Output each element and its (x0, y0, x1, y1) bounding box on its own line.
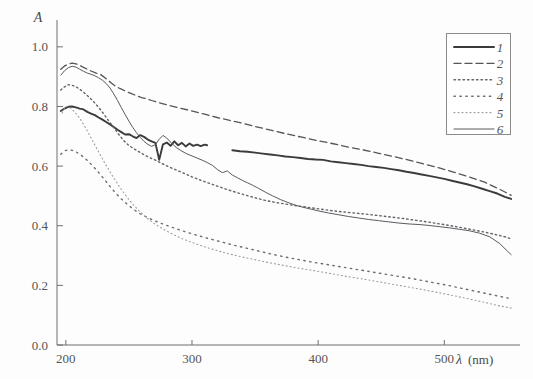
series-3 (61, 85, 511, 239)
x-axis-title-symbol: λ (455, 352, 462, 367)
legend-label-1: 1 (497, 40, 504, 55)
legend-label-4: 4 (497, 89, 504, 104)
y-tick-label-0.4: 0.4 (32, 218, 49, 233)
series-2 (61, 63, 511, 195)
chart-legend: 123456 (447, 34, 511, 138)
series-6 (61, 66, 511, 254)
absorbance-spectrum-figure: 200300400500 0.00.20.40.60.81.0 A λ (nm)… (0, 0, 533, 379)
y-axis-tick-labels: 0.00.20.40.60.81.0 (32, 39, 49, 352)
x-tick-label-200: 200 (56, 351, 76, 366)
series-1-segment-1 (232, 150, 511, 199)
x-tick-label-500: 500 (435, 351, 455, 366)
x-axis-ticks (66, 340, 444, 345)
series-3-segment-0 (61, 85, 511, 239)
y-axis-title: A (33, 10, 43, 25)
y-axis-ticks (57, 47, 63, 345)
x-tick-label-300: 300 (182, 351, 202, 366)
data-series-group (61, 63, 511, 308)
y-tick-label-0.6: 0.6 (32, 159, 49, 174)
y-tick-label-0.2: 0.2 (32, 278, 48, 293)
y-tick-label-0.0: 0.0 (32, 338, 48, 353)
legend-label-2: 2 (497, 56, 504, 71)
x-tick-label-400: 400 (308, 351, 328, 366)
x-axis-title-unit: (nm) (468, 352, 493, 367)
x-axis-tick-labels: 200300400500 (56, 351, 454, 366)
chart-canvas: 200300400500 0.00.20.40.60.81.0 A λ (nm)… (0, 0, 533, 379)
series-5-segment-0 (62, 106, 511, 308)
legend-label-3: 3 (496, 73, 504, 88)
series-5 (62, 106, 511, 308)
y-tick-label-0.8: 0.8 (32, 99, 48, 114)
series-2-segment-0 (61, 63, 511, 195)
series-1-segment-0 (61, 106, 207, 159)
series-6-segment-0 (61, 66, 511, 254)
legend-label-6: 6 (497, 122, 504, 137)
legend-label-5: 5 (497, 106, 504, 121)
y-tick-label-1.0: 1.0 (32, 39, 48, 54)
